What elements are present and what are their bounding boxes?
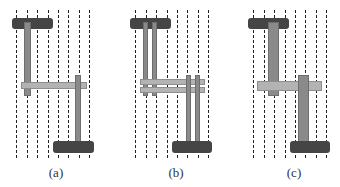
right-vertical-track <box>298 75 309 150</box>
panel-c: (c) <box>0 0 113 187</box>
grid-line <box>253 10 254 158</box>
bottom-end-bar <box>172 141 212 153</box>
grid-line <box>135 10 136 158</box>
right-vertical-track-2 <box>195 75 200 150</box>
top-end-bar <box>130 18 171 29</box>
right-vertical-track-1 <box>186 75 191 150</box>
panel-label: (b) <box>168 165 183 181</box>
horizontal-track <box>257 81 322 91</box>
grid-line <box>326 10 327 158</box>
bottom-end-bar <box>290 141 330 153</box>
panel-label: (c) <box>287 165 301 181</box>
grid-line <box>208 10 209 158</box>
